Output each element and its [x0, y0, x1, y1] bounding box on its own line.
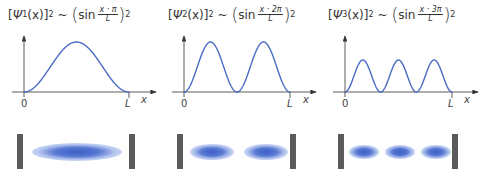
- panel-n1: [Ψ1(x)]2 ~ (sin x · πL )2 0 L x: [0, 0, 160, 176]
- probability-cloud: [421, 145, 451, 159]
- probability-cloud: [190, 144, 234, 160]
- probability-curve: [345, 60, 452, 92]
- probability-curve: [24, 42, 129, 92]
- right-wall: [290, 134, 296, 169]
- probability-cloud: [385, 145, 415, 159]
- origin-label: 0: [21, 98, 27, 109]
- l-label: L: [448, 98, 454, 109]
- origin-label: 0: [342, 98, 348, 109]
- right-wall: [452, 134, 458, 169]
- l-label: L: [125, 98, 131, 109]
- left-wall: [17, 134, 23, 169]
- left-wall: [338, 134, 344, 169]
- x-label: x: [141, 94, 147, 105]
- l-label: L: [287, 98, 293, 109]
- x-label: x: [464, 94, 470, 105]
- origin-label: 0: [181, 98, 187, 109]
- x-label: x: [303, 94, 309, 105]
- panel-n2: [Ψ2(x)]2 ~ (sin x · 2πL )2 0 L x: [160, 0, 320, 176]
- probability-cloud: [32, 143, 122, 161]
- probability-cloud: [244, 144, 288, 160]
- probability-curve: [184, 42, 290, 92]
- left-wall: [177, 134, 183, 169]
- right-wall: [129, 134, 135, 169]
- panel-n3: [Ψ3(x)]2 ~ (sin x · 3πL )2 0 L x: [320, 0, 480, 176]
- probability-cloud: [349, 145, 379, 159]
